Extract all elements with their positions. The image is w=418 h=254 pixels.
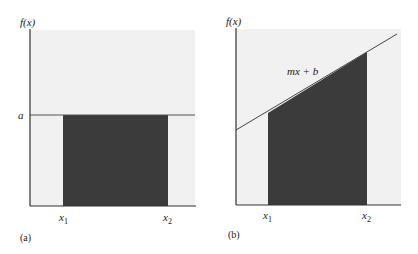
x1-label-b: x1: [262, 209, 272, 224]
panel-b: f(x) mx + b x1 x2 (b): [226, 15, 401, 241]
x1-label-a: x1: [58, 211, 68, 226]
figure: f(x) a x1 x2 (a) f(x) mx + b x1 x2 (b): [0, 0, 418, 254]
caption-b: (b): [228, 229, 240, 241]
y-axis-label-a: f(x): [20, 16, 36, 29]
level-label: a: [18, 109, 24, 121]
caption-a: (a): [20, 232, 31, 244]
shaded-rectangle: [63, 115, 168, 206]
panel-a: f(x) a x1 x2 (a): [18, 16, 196, 244]
y-axis-label-b: f(x): [226, 15, 242, 28]
line-label: mx + b: [287, 65, 319, 77]
x2-label-a: x2: [162, 211, 172, 226]
x2-label-b: x2: [361, 209, 371, 224]
